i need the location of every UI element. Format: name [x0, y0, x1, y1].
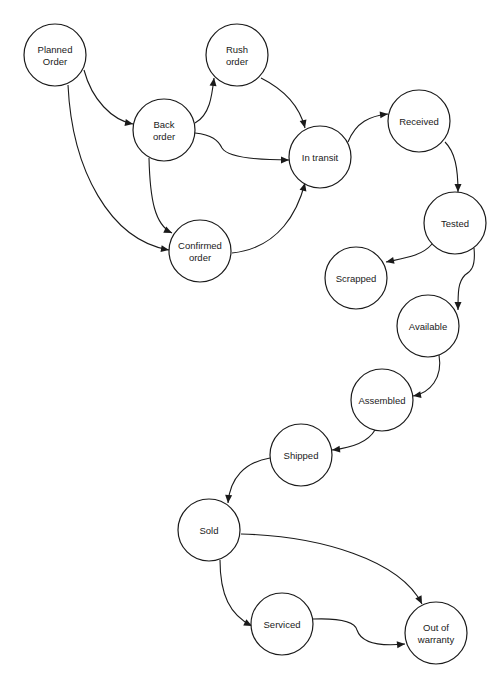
arrowhead-icon	[380, 111, 388, 118]
arrowhead-icon	[124, 119, 133, 126]
edge-line	[413, 355, 440, 396]
node-rush: Rushorder	[206, 24, 268, 86]
edge-assembled-to-shipped	[332, 430, 375, 453]
edge-line	[84, 70, 133, 124]
node-label: Available	[409, 321, 447, 332]
node-label: Tested	[441, 218, 469, 229]
arrowhead-icon	[281, 157, 289, 164]
edge-available-to-assembled	[413, 355, 440, 398]
node-label: Out of	[423, 622, 449, 633]
node-received: Received	[388, 90, 450, 152]
arrowhead-icon	[415, 595, 422, 604]
node-label: In transit	[302, 152, 339, 163]
node-label: Shipped	[284, 450, 319, 461]
arrowhead-icon	[332, 446, 340, 453]
arrowhead-icon	[386, 257, 395, 264]
node-label: order	[189, 252, 211, 263]
node-transit: In transit	[289, 126, 351, 188]
edge-rush-to-transit	[261, 78, 306, 128]
node-available: Available	[397, 295, 459, 357]
node-label: order	[226, 56, 248, 67]
node-label: Received	[399, 116, 439, 127]
edge-back-to-transit	[195, 133, 289, 164]
node-label: Rush	[226, 44, 248, 55]
edge-line	[232, 183, 305, 253]
edge-line	[241, 534, 422, 604]
edge-tested-to-available	[455, 248, 475, 310]
edge-shipped-to-sold	[225, 458, 270, 503]
edge-line	[458, 248, 474, 310]
edge-back-to-confirmed	[149, 158, 172, 233]
node-scrapped: Scrapped	[325, 247, 387, 309]
node-label: Scrapped	[336, 273, 377, 284]
node-planned: PlannedOrder	[24, 24, 86, 86]
arrowhead-icon	[397, 641, 405, 648]
edge-back-to-rush	[195, 78, 217, 123]
edge-sold-to-warranty	[241, 534, 422, 604]
node-back: Backorder	[133, 99, 195, 161]
edge-tested-to-scrapped	[386, 244, 432, 264]
node-warranty: Out ofwarranty	[405, 602, 467, 664]
edge-received-to-tested	[445, 142, 462, 192]
node-label: order	[153, 131, 175, 142]
edge-line	[228, 458, 270, 503]
node-label: Assembled	[359, 395, 406, 406]
arrowhead-icon	[455, 184, 462, 192]
edge-line	[220, 560, 252, 626]
node-confirmed: Confirmedorder	[169, 220, 231, 282]
arrowhead-icon	[210, 78, 217, 86]
edge-sold-to-serviced	[220, 560, 252, 626]
nodes-layer: PlannedOrderRushorderBackorderIn transit…	[24, 24, 486, 664]
edge-confirmed-to-transit	[232, 183, 306, 253]
node-label: Order	[43, 56, 67, 67]
edge-transit-to-received	[348, 111, 388, 142]
node-label: Confirmed	[178, 240, 222, 251]
node-shipped: Shipped	[270, 424, 332, 486]
arrowhead-icon	[161, 245, 169, 252]
edge-planned-to-back	[84, 70, 133, 126]
edge-line	[313, 619, 405, 645]
node-label: warranty	[417, 634, 455, 645]
arrowhead-icon	[300, 119, 307, 128]
node-label: Sold	[199, 525, 218, 536]
edges-layer	[68, 70, 474, 648]
arrowhead-icon	[413, 391, 421, 398]
state-diagram: PlannedOrderRushorderBackorderIn transit…	[0, 0, 504, 684]
edge-line	[149, 158, 172, 233]
node-label: Planned	[38, 44, 73, 55]
edge-line	[348, 114, 388, 142]
arrowhead-icon	[455, 302, 462, 310]
edge-serviced-to-warranty	[313, 619, 405, 648]
node-serviced: Serviced	[251, 593, 313, 655]
node-tested: Tested	[424, 192, 486, 254]
node-assembled: Assembled	[351, 369, 413, 431]
edge-line	[195, 133, 289, 160]
node-sold: Sold	[178, 499, 240, 561]
arrowhead-icon	[225, 495, 232, 503]
node-label: Back	[153, 119, 174, 130]
edge-line	[261, 78, 305, 128]
node-label: Serviced	[264, 619, 301, 630]
